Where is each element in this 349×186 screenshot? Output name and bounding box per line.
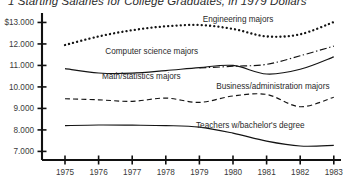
x-tick-label: 1977 bbox=[123, 168, 142, 177]
x-tick-label: 1978 bbox=[157, 168, 176, 177]
y-tick-label: 11.000 bbox=[10, 61, 35, 70]
x-tick-label: 1975 bbox=[56, 168, 75, 177]
y-tick-label: 7.000 bbox=[14, 147, 35, 156]
series-line-0 bbox=[65, 22, 334, 45]
chart-plot-area: $13.00012.00011.00010.0009.0008.0007.000… bbox=[0, 0, 349, 186]
y-tick-label: 8.000 bbox=[14, 126, 35, 135]
series-label-0: Engineering majors bbox=[203, 15, 274, 24]
series-label-1: Computer science majors bbox=[105, 47, 198, 56]
y-tick-label: 9.000 bbox=[14, 104, 35, 113]
chart-container: 1 Starting Salaries for College Graduate… bbox=[0, 0, 349, 186]
series-line-3 bbox=[65, 94, 334, 107]
x-axis: 197519761977197819791980198119821983 bbox=[42, 156, 343, 178]
y-tick-label: $13.000 bbox=[4, 18, 34, 27]
y-tick-label: 12.000 bbox=[9, 40, 34, 49]
x-tick-label: 1983 bbox=[325, 168, 344, 177]
y-axis: $13.00012.00011.00010.0009.0008.0007.000 bbox=[4, 13, 46, 160]
series-label-4: Teachers w/bachelor's degree bbox=[196, 121, 305, 130]
series-label-2: Math/statistics majors bbox=[102, 72, 181, 81]
x-tick-label: 1982 bbox=[291, 168, 310, 177]
x-tick-label: 1980 bbox=[224, 168, 243, 177]
y-tick-label: 10.000 bbox=[9, 83, 34, 92]
x-tick-label: 1976 bbox=[89, 168, 108, 177]
series-label-3: Business/administration majors bbox=[216, 82, 329, 91]
x-tick-label: 1979 bbox=[190, 168, 209, 177]
x-tick-label: 1981 bbox=[257, 168, 276, 177]
series-annotations: Engineering majorsComputer science major… bbox=[102, 15, 330, 130]
